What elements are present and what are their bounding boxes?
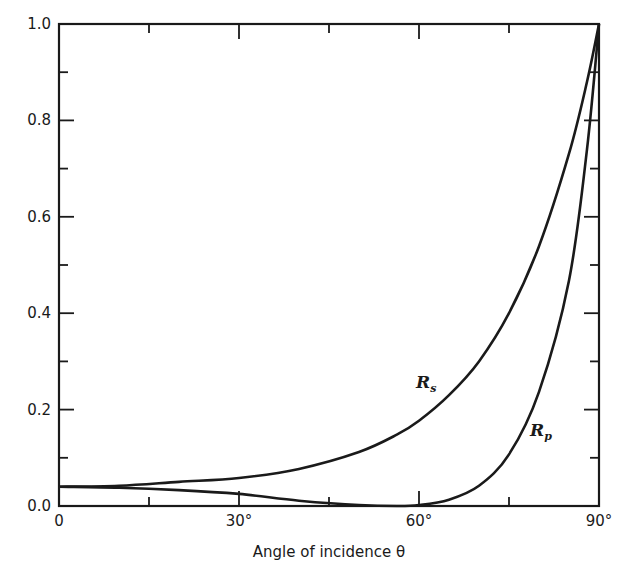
rp-curve [59, 24, 599, 506]
x-axis-title: Angle of incidence θ [253, 543, 405, 561]
y-axis-tick-labels: 0.00.20.40.60.81.0 [27, 15, 51, 515]
y-tick-label: 0.0 [27, 497, 51, 515]
y-tick-label: 0.8 [27, 111, 51, 129]
y-tick-label: 1.0 [27, 15, 51, 33]
rs-label: Rs [415, 372, 436, 395]
y-tick-label: 0.4 [27, 304, 51, 322]
reflectance-chart: 0.00.20.40.60.81.0 030°60°90° Rs Rp Angl… [0, 0, 632, 574]
plot-frame [59, 24, 599, 506]
x-axis-tick-labels: 030°60°90° [54, 512, 612, 530]
x-tick-label: 30° [226, 512, 253, 530]
axis-ticks [59, 24, 599, 506]
rp-label: Rp [529, 420, 552, 443]
rs-curve [59, 24, 599, 487]
x-tick-label: 60° [406, 512, 433, 530]
curves [59, 24, 599, 506]
y-tick-label: 0.2 [27, 401, 51, 419]
x-tick-label: 90° [586, 512, 613, 530]
x-tick-label: 0 [54, 512, 64, 530]
y-tick-label: 0.6 [27, 208, 51, 226]
